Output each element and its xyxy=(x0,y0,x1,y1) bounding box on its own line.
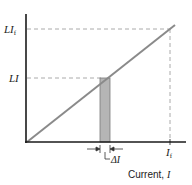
inductance-current-diagram: LIf LI If ΔI Current, I xyxy=(0,0,192,185)
delta-I-strip xyxy=(100,78,110,142)
label-If: If xyxy=(165,146,173,160)
label-delta-I: ΔI xyxy=(110,154,121,165)
label-LI: LI xyxy=(8,72,20,84)
label-LIf: LIf xyxy=(3,23,17,37)
x-axis-title: Current, I xyxy=(128,169,171,180)
